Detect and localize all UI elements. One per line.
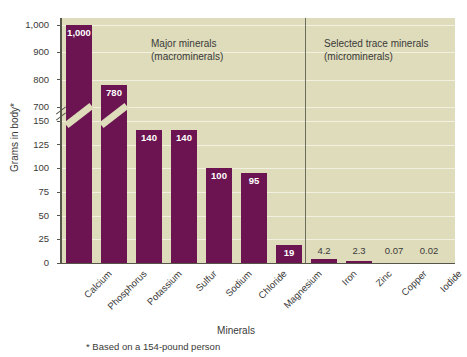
y-axis-tick-label: 50 — [38, 211, 49, 221]
bar-calcium[interactable] — [66, 25, 92, 263]
y-axis-tick-label: 150 — [33, 116, 49, 126]
bar-value-label-iodide: 0.02 — [409, 245, 449, 256]
y-axis-tick-mark — [57, 107, 61, 108]
annotation-trace-minerals-line2: (microminerals) — [324, 51, 429, 64]
bar-value-label-sulfur: 140 — [167, 132, 201, 143]
chart-footnote: * Based on a 154-pound person — [86, 341, 220, 352]
y-axis-tick-mark — [57, 239, 61, 240]
bar-value-label-potassium: 140 — [132, 132, 166, 143]
bar-value-label-copper: 0.07 — [374, 245, 414, 256]
y-axis-tick-mark — [57, 121, 61, 122]
annotation-major-minerals-line2: (macrominerals) — [151, 51, 223, 64]
annotation-major-minerals: Major minerals (macrominerals) — [151, 38, 223, 63]
y-axis-tick-label: 1,000 — [25, 20, 49, 30]
annotation-trace-minerals-line1: Selected trace minerals — [324, 38, 429, 51]
y-axis-tick-mark — [57, 192, 61, 193]
group-divider-line — [305, 18, 306, 263]
bar-sodium[interactable] — [206, 168, 232, 263]
annotation-major-minerals-line1: Major minerals — [151, 38, 223, 51]
bar-potassium[interactable] — [136, 130, 162, 263]
y-axis-title: Grams in body* — [9, 88, 20, 188]
y-axis-tick-label: 125 — [33, 140, 49, 150]
gridline — [61, 80, 455, 81]
bar-value-label-iron: 4.2 — [304, 245, 344, 256]
y-axis-tick-mark — [57, 144, 61, 145]
bar-iron[interactable] — [311, 259, 337, 263]
y-axis-tick-mark — [57, 25, 61, 26]
bar-value-label-phosphorus: 780 — [97, 87, 131, 98]
y-axis-tick-label: 800 — [33, 75, 49, 85]
annotation-trace-minerals: Selected trace minerals (microminerals) — [324, 38, 429, 63]
y-axis-tick-label: 700 — [33, 102, 49, 112]
bar-chloride[interactable] — [241, 173, 267, 263]
bar-zinc[interactable] — [346, 261, 372, 263]
y-axis-tick-label: 0 — [44, 258, 49, 268]
bar-value-label-zinc: 2.3 — [339, 245, 379, 256]
y-axis-line — [60, 18, 62, 264]
mineral-composition-bar-chart: 1,0009008007001501251007550250 Grams in … — [0, 0, 467, 357]
bar-value-label-chloride: 95 — [237, 175, 271, 186]
y-axis-tick-mark — [57, 168, 61, 169]
y-axis-tick-label: 900 — [33, 47, 49, 57]
y-axis-tick-label: 75 — [38, 187, 49, 197]
y-axis-tick-mark — [57, 52, 61, 53]
x-axis-title: Minerals — [196, 325, 276, 336]
y-axis-tick-mark — [57, 215, 61, 216]
y-axis-tick-label: 100 — [33, 163, 49, 173]
bar-sulfur[interactable] — [171, 130, 197, 263]
bar-value-label-calcium: 1,000 — [62, 27, 96, 38]
bar-value-label-sodium: 100 — [202, 170, 236, 181]
gridline — [61, 25, 455, 26]
y-axis-tick-label: 25 — [38, 234, 49, 244]
bar-value-label-magnesium: 19 — [272, 247, 306, 258]
y-axis-tick-mark — [57, 79, 61, 80]
y-axis-tick-mark — [57, 263, 61, 264]
